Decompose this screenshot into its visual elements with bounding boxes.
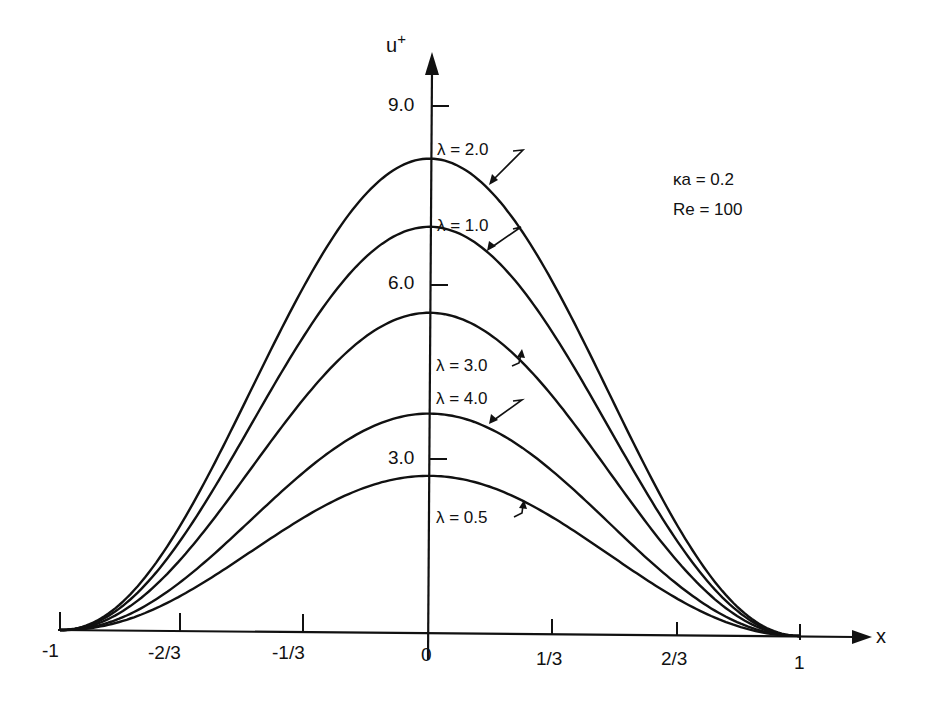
curve-label-lambda-4-0: λ = 4.0 (436, 389, 488, 409)
curve-label-lambda-2-0: λ = 2.0 (437, 140, 489, 160)
x-axis-arrow-icon (852, 630, 872, 644)
x-tick-2-3: 2/3 (661, 648, 687, 670)
curve-label-lambda-0-5: λ = 0.5 (436, 508, 488, 528)
y-axis-title-sup: + (397, 30, 406, 47)
y-axis-title: u+ (386, 30, 406, 57)
curve-label-lambda-3-0: λ = 3.0 (436, 356, 488, 376)
x-tick-neg1-3: -1/3 (272, 642, 305, 664)
x-axis-line (58, 630, 855, 637)
y-axis-title-text: u (386, 34, 397, 56)
x-axis-title: x (876, 625, 886, 648)
x-tick-neg2-3: -2/3 (148, 642, 181, 664)
curve-label-lambda-1-0: λ = 1.0 (437, 216, 489, 236)
y-axis-arrow-icon (425, 52, 439, 75)
label-arrows (492, 150, 523, 517)
x-tick-neg1: -1 (42, 640, 59, 662)
x-tick-1: 1 (794, 652, 805, 674)
y-tick-3: 3.0 (388, 447, 414, 469)
param-reynolds: Re = 100 (673, 200, 742, 220)
y-tick-9: 9.0 (388, 94, 414, 116)
velocity-profile-chart (0, 0, 940, 705)
x-tick-1-3: 1/3 (536, 648, 562, 670)
arrow-heads (487, 174, 527, 509)
param-kappa-a: κa = 0.2 (673, 170, 734, 190)
y-tick-6: 6.0 (388, 272, 414, 294)
x-tick-0: 0 (421, 644, 432, 666)
